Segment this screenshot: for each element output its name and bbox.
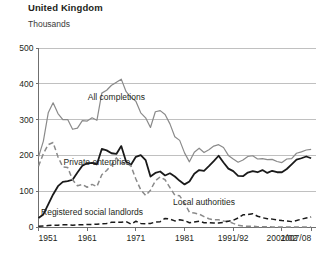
y-axis-ticks-group: 0100200300400500 [19,43,38,232]
series-line-all-completions [39,79,312,162]
y-tick-label: 500 [19,43,33,53]
y-tick-label: 400 [19,79,33,89]
chart-container: United Kingdom Thousands 010020030040050… [0,0,328,257]
series-label-registered-social-landlords: Registered social landlords [41,207,143,217]
series-label-local-authorities: Local authorities [173,197,235,207]
x-tick-label: 2007/08 [280,233,311,243]
x-tick-label: 1981 [175,233,194,243]
x-tick-label: 1991/92 [218,233,249,243]
series-annotations-group: All completionsPrivate enterpriseLocal a… [41,92,235,217]
y-tick-label: 300 [19,115,33,125]
series-label-all-completions: All completions [88,92,145,102]
y-tick-label: 100 [19,186,33,196]
x-tick-label: 1951 [39,233,58,243]
series-label-private-enterprise: Private enterprise [64,157,131,167]
x-tick-label: 1961 [78,233,97,243]
line-chart-plot: 0100200300400500 19511961197119811991/92… [0,0,328,257]
y-tick-label: 0 [29,222,34,232]
x-axis-ticks-group: 19511961197119811991/922001/022007/08 [39,227,312,243]
y-tick-label: 200 [19,150,33,160]
x-tick-label: 1971 [126,233,145,243]
